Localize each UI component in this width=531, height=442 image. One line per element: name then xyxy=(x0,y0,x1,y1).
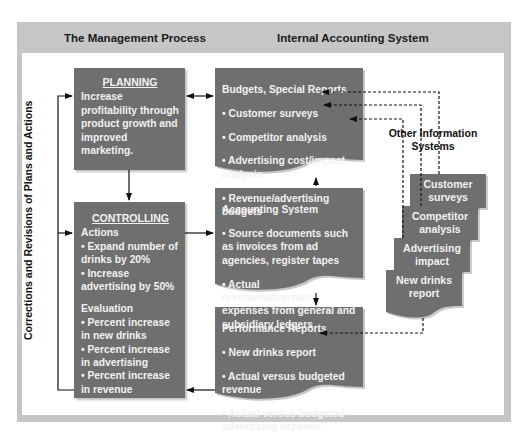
performance-item: • Actual versus budgeted advertising exp… xyxy=(222,407,359,434)
doc-advertising-impact: Advertising impact xyxy=(394,238,470,274)
other-information-systems-label: Other Information Systems xyxy=(383,127,483,153)
doc-label: Customer surveys xyxy=(410,174,486,204)
actions-heading: Actions xyxy=(81,226,180,239)
budgets-item: • Competitor analysis xyxy=(222,131,359,144)
header-management-process: The Management Process xyxy=(64,32,206,44)
budgets-item: • Customer surveys xyxy=(222,107,359,120)
planning-box: PLANNING Increase profitability through … xyxy=(74,68,185,170)
planning-title: PLANNING xyxy=(81,76,179,89)
evaluation-item: • Percent increase in new drinks xyxy=(81,316,180,343)
controlling-box: CONTROLLING Actions • Expand number of d… xyxy=(74,202,185,398)
doc-label: Competitor analysis xyxy=(402,206,478,236)
budgets-item: • Advertising cost/impact analysis xyxy=(222,154,359,181)
doc-label: New drinks report xyxy=(386,270,462,300)
accounting-document: Accounting System • Source documents suc… xyxy=(215,188,365,296)
performance-item: • Actual versus budgeted revenue xyxy=(222,370,359,397)
evaluation-item: • Percent increase in revenue xyxy=(81,369,180,396)
budgets-title: Budgets, Special Reports xyxy=(222,83,359,96)
evaluation-item: • Percent increase in advertising xyxy=(81,343,180,370)
doc-customer-surveys: Customer surveys xyxy=(410,174,486,210)
action-item: • Expand number of drinks by 20% xyxy=(81,240,180,267)
header-internal-accounting: Internal Accounting System xyxy=(277,32,429,44)
controlling-title: CONTROLLING xyxy=(81,212,180,225)
doc-competitor-analysis: Competitor analysis xyxy=(402,206,478,242)
performance-title: Performance Reports xyxy=(222,322,359,335)
planning-text: Increase profitability through product g… xyxy=(81,90,179,157)
doc-label: Advertising impact xyxy=(394,238,470,268)
evaluation-heading: Evaluation xyxy=(81,302,180,315)
performance-document: Performance Reports • New drinks report … xyxy=(215,307,365,407)
doc-new-drinks-report: New drinks report xyxy=(386,270,462,320)
budgets-document: Budgets, Special Reports • Customer surv… xyxy=(215,68,365,178)
action-item: • Increase advertising by 50% xyxy=(81,267,180,294)
corrections-label: Corrections and Revisions of Plans and A… xyxy=(22,101,34,340)
accounting-item: • Source documents such as invoices from… xyxy=(222,227,359,267)
accounting-title: Accounting System xyxy=(222,203,359,216)
performance-item: • New drinks report xyxy=(222,346,359,359)
